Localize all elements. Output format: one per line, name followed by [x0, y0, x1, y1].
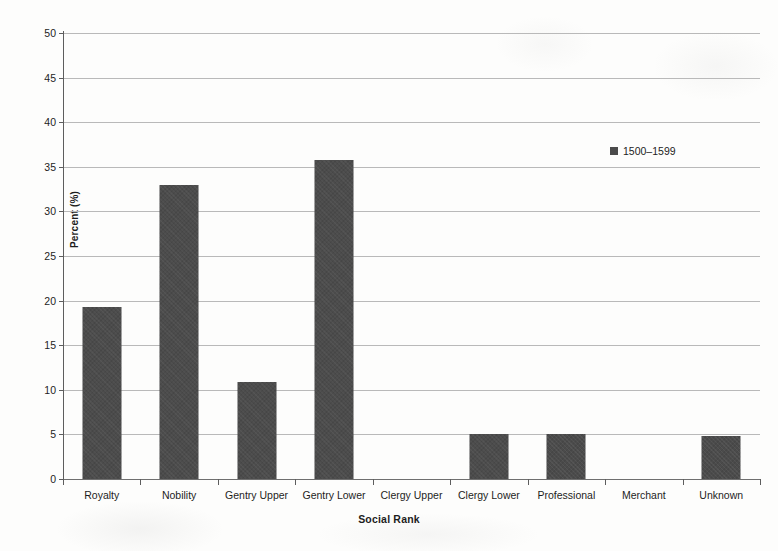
- x-tick-label: Royalty: [63, 489, 140, 501]
- x-tick-mark: [683, 479, 684, 485]
- y-tick-label: 15: [44, 339, 56, 351]
- x-axis-title: Social Rank: [0, 513, 778, 525]
- x-tick-mark: [373, 479, 374, 485]
- x-tick-mark: [63, 479, 64, 485]
- x-tick-mark: [605, 479, 606, 485]
- legend-square-marker-icon: [610, 147, 618, 155]
- bar-slot: [450, 33, 527, 479]
- y-tick-label: 10: [44, 384, 56, 396]
- x-tick-label: Nobility: [140, 489, 217, 501]
- x-axis-tick-labels: RoyaltyNobilityGentry UpperGentry LowerC…: [63, 489, 760, 501]
- bar: [82, 307, 121, 479]
- bar-series-1500-1599: [63, 33, 760, 479]
- x-tick-mark: [450, 479, 451, 485]
- bar: [237, 382, 276, 479]
- bar-slot: [140, 33, 217, 479]
- legend-label: 1500–1599: [623, 145, 676, 157]
- y-tick-label: 25: [44, 250, 56, 262]
- x-tick-label: Professional: [528, 489, 605, 501]
- y-tick-label: 35: [44, 161, 56, 173]
- x-tick-label: Gentry Lower: [295, 489, 372, 501]
- legend: 1500–1599: [610, 145, 676, 157]
- bar: [702, 436, 741, 479]
- bar: [547, 434, 586, 479]
- y-tick-label: 5: [50, 428, 56, 440]
- bar-slot: [63, 33, 140, 479]
- x-tick-mark: [218, 479, 219, 485]
- y-tick-label: 30: [44, 205, 56, 217]
- y-tick-label: 0: [50, 473, 56, 485]
- x-tick-mark: [140, 479, 141, 485]
- bar-slot: [218, 33, 295, 479]
- x-tick-mark: [528, 479, 529, 485]
- bar: [469, 434, 508, 479]
- bar-slot: [605, 33, 682, 479]
- y-tick-label: 40: [44, 116, 56, 128]
- x-axis-tick-marks: [63, 479, 760, 486]
- x-tick-label: Clergy Upper: [373, 489, 450, 501]
- bar-slot: [528, 33, 605, 479]
- x-tick-mark: [760, 479, 761, 485]
- y-tick-label: 50: [44, 27, 56, 39]
- bar-slot: [373, 33, 450, 479]
- bar-slot: [295, 33, 372, 479]
- y-tick-label: 20: [44, 295, 56, 307]
- plot-area: 05101520253035404550: [63, 33, 760, 479]
- bar-slot: [683, 33, 760, 479]
- x-tick-label: Unknown: [683, 489, 760, 501]
- bar: [160, 185, 199, 479]
- x-tick-label: Gentry Upper: [218, 489, 295, 501]
- x-tick-mark: [295, 479, 296, 485]
- x-tick-label: Merchant: [605, 489, 682, 501]
- y-tick-label: 45: [44, 72, 56, 84]
- bar-chart-figure: Percent (%) Social Rank 0510152025303540…: [0, 0, 778, 551]
- x-tick-label: Clergy Lower: [450, 489, 527, 501]
- bar: [315, 160, 354, 479]
